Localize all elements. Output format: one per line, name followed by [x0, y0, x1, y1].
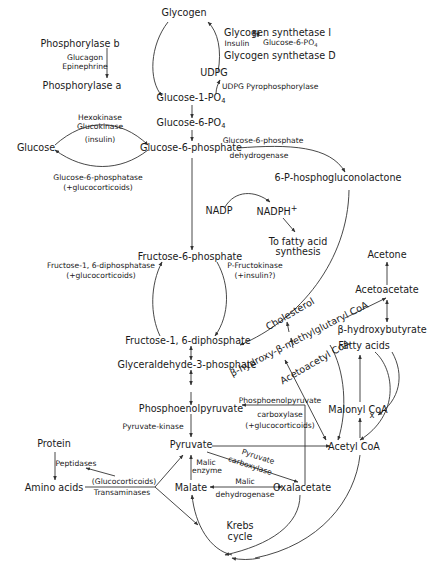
regulator-glucocorticoids-2: (+glucocorticoids): [66, 272, 136, 280]
enzyme-glucokinase: Glucokinase: [77, 123, 123, 131]
node-acetone: Acetone: [367, 250, 406, 260]
regulator-insulin-paren: (insulin): [85, 136, 116, 144]
enzyme-p-fructokinase: P-Fructokinase: [227, 262, 282, 270]
enzyme-pep-carboxylase-1: Phosphoenolpyruvate: [239, 397, 322, 405]
node-pyruvate: Pyruvate: [170, 440, 213, 450]
node-oxalacetate: Oxalacetate: [273, 483, 331, 493]
node-phosphoenolpyruvate: Phosphoenolpyruvate: [139, 404, 243, 414]
enzyme-malic-dehydrogenase-2: dehydrogenase: [216, 491, 275, 499]
enzyme-udpg-pyrophosphorylase: UDPG Pyrophosphorylase: [222, 83, 318, 91]
enzyme-malic-dehydrogenase-1: Malic: [235, 478, 255, 486]
enzyme-g6p-dehydrogenase-1: Glucose-6-phosphate: [223, 137, 304, 145]
enzyme-g6p-dehydrogenase-2: dehydrogenase: [230, 152, 289, 160]
metabolic-pathway-diagram: Glycogen Phosphorylase b Phosphorylase a…: [0, 0, 436, 569]
node-udpg: UDPG: [200, 68, 228, 78]
node-krebs-2: cycle: [228, 532, 253, 542]
node-glycogen: Glycogen: [162, 8, 207, 18]
node-acetoacetate: Acetoacetate: [355, 285, 419, 295]
enzyme-glucose-6-phosphatase: Glucose-6-phosphatase: [53, 174, 142, 182]
node-amino-acids: Amino acids: [25, 483, 83, 493]
node-fatty-acid-synthesis-2: synthesis: [275, 247, 320, 257]
regulator-glucocorticoids-1: (+glucocorticoids): [63, 184, 133, 192]
regulator-insulin: Insulin: [225, 40, 250, 48]
node-phosphorylase-a: Phosphorylase a: [43, 81, 122, 91]
node-fatty-acids: Fatty acids: [338, 341, 390, 351]
enzyme-peptidases: Peptidases: [56, 460, 97, 468]
node-b-hydroxybutyrate: β-hydroxybutyrate: [337, 325, 426, 335]
node-phosphorylase-b: Phosphorylase b: [41, 39, 120, 49]
node-glucose-1-po4: Glucose-1-PO4: [157, 93, 226, 105]
node-acetyl-coa: Acetyl CoA: [328, 442, 380, 452]
regulator-glucocorticoids-3: (+glucocorticoids): [245, 422, 315, 430]
inhibit-mark: x: [370, 411, 375, 419]
node-malonyl-coa: Malonyl CoA: [328, 405, 387, 415]
enzyme-hexokinase: Hexokinase: [78, 114, 122, 122]
enzyme-pyruvate-kinase: Pyruvate-kinase: [122, 423, 183, 431]
node-glucose-6-po4: Glucose-6-PO4: [157, 118, 226, 130]
node-protein: Protein: [37, 439, 71, 449]
enzyme-fructose-diphosphatase: Fructose-1, 6-diphosphatase: [47, 262, 155, 270]
enzyme-pep-carboxylase-2: carboxylase: [257, 411, 303, 419]
enzyme-transaminases: Transaminases: [94, 489, 150, 497]
node-glycogen-synthetase-d: Glycogen synthetase D: [224, 51, 336, 61]
node-krebs-1: Krebs: [226, 521, 253, 531]
node-fructose-1-6-diphosphate: Fructose-1, 6-diphosphate: [125, 336, 250, 346]
regulator-insulin-question: (+insulin?): [234, 272, 275, 280]
node-nadp: NADP: [206, 206, 233, 216]
node-p-gluconolactone: 6-P-hosphogluconolactone: [275, 173, 402, 183]
regulator-glucose-6-po4: Glucose-6-PO4: [263, 39, 318, 48]
regulator-glucocorticoids-4: (Glucocorticoids): [92, 478, 156, 486]
node-nadph: NADPH+: [257, 205, 298, 217]
node-glycogen-synthetase-i: Glycogen synthetase I: [224, 28, 331, 38]
enzyme-epinephrine: Epinephrine: [62, 63, 108, 71]
enzyme-malic-enzyme-2: enzyme: [192, 467, 222, 475]
node-malate: Malate: [175, 483, 207, 493]
enzyme-glucagon: Glucagon: [67, 54, 103, 62]
node-glucose: Glucose: [17, 143, 55, 153]
